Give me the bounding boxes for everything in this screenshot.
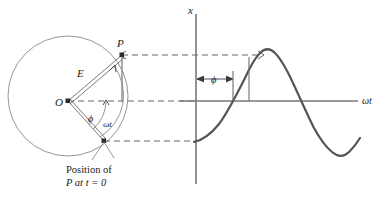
waveform-plot-group: x ωt ϕ xyxy=(180,4,372,184)
sine-wave-curve xyxy=(194,49,360,156)
phi-measure-arrowhead-left xyxy=(197,76,204,82)
omega-t-angle-label: ωt xyxy=(103,119,112,129)
vertical-axis-label: x xyxy=(187,4,193,16)
initial-position-radius xyxy=(68,101,104,141)
center-point-marker xyxy=(66,99,71,104)
figure-canvas: O P E ϕ ωt Position of P at t = 0 x xyxy=(0,0,385,197)
phi-measure-arrowhead-right xyxy=(226,76,233,82)
phasor-magnitude-label: E xyxy=(76,67,84,79)
point-p-label: P xyxy=(116,37,124,49)
caption-leader-line-secondary xyxy=(104,142,114,158)
wave-phase-marker-label: ϕ xyxy=(211,74,217,85)
caption-line-2: P at t = 0 xyxy=(65,177,107,188)
center-label: O xyxy=(55,96,63,108)
omega-t-arc-arrowhead xyxy=(110,65,116,72)
caption-leader-line xyxy=(92,142,104,160)
horizontal-axis-label: ωt xyxy=(362,95,372,106)
rotation-circle xyxy=(8,36,128,156)
tip-point-marker xyxy=(120,53,125,58)
phasor-waveform-figure: O P E ϕ ωt Position of P at t = 0 x xyxy=(0,0,385,197)
phasor-vector-edge-lower xyxy=(70,58,124,104)
caption-line-1: Position of xyxy=(66,164,112,175)
phi-angle-label: ϕ xyxy=(88,113,93,124)
